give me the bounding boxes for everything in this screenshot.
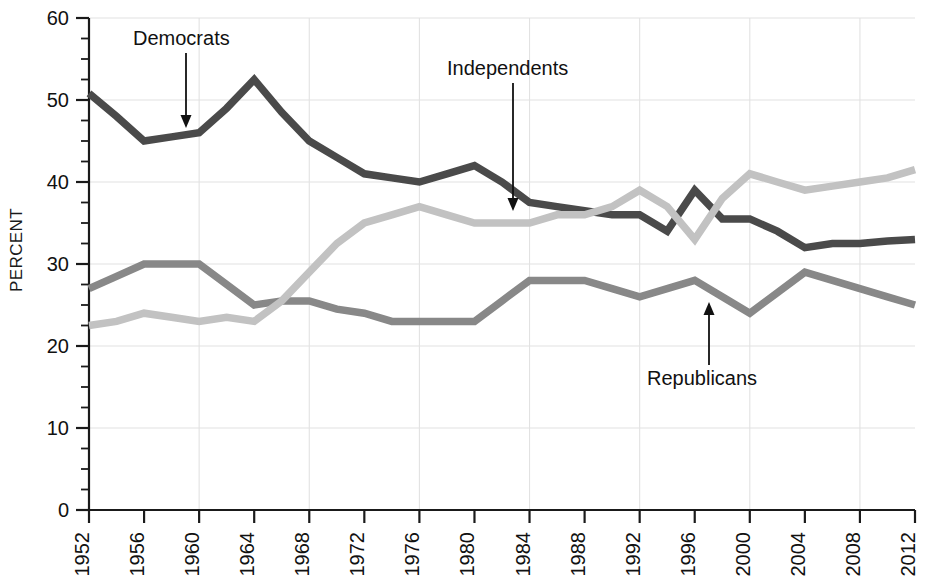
y-tick-labels: 0102030405060: [47, 7, 69, 521]
x-axis-ticks: [89, 510, 915, 523]
x-tick-label: 2000: [732, 532, 754, 577]
annotation-label-republicans: Republicans: [647, 367, 757, 389]
x-tick-label: 2008: [842, 532, 864, 577]
x-tick-label: 1964: [236, 532, 258, 577]
x-tick-label: 1980: [456, 532, 478, 577]
x-tick-labels: 1952195619601964196819721976198019841988…: [71, 532, 919, 577]
x-tick-label: 1996: [677, 532, 699, 577]
x-tick-label: 1988: [567, 532, 589, 577]
annotation-arrow-head: [181, 115, 192, 128]
y-tick-label: 50: [47, 89, 69, 111]
annotation-arrow-head: [704, 302, 715, 315]
y-tick-label: 20: [47, 335, 69, 357]
percent-party-identification-chart: 0102030405060 19521956196019641968197219…: [0, 0, 936, 580]
y-tick-label: 60: [47, 7, 69, 29]
x-tick-label: 2012: [897, 532, 919, 577]
x-tick-label: 1952: [71, 532, 93, 577]
y-tick-label: 0: [58, 499, 69, 521]
y-tick-label: 30: [47, 253, 69, 275]
x-tick-label: 1968: [291, 532, 313, 577]
x-tick-label: 1960: [181, 532, 203, 577]
y-axis-title-text: PERCENT: [7, 208, 26, 292]
gridlines: [89, 18, 915, 510]
annotation-arrow-head: [508, 198, 519, 211]
y-tick-label: 40: [47, 171, 69, 193]
chart-canvas: 0102030405060 19521956196019641968197219…: [0, 0, 936, 580]
y-axis-title: PERCENT: [7, 208, 26, 292]
x-tick-label: 1984: [512, 532, 534, 577]
x-tick-label: 2004: [787, 532, 809, 577]
x-tick-label: 1992: [622, 532, 644, 577]
data-series: [89, 80, 915, 326]
series-line-republicans: [89, 264, 915, 321]
annotation-label-democrats: Democrats: [133, 27, 230, 49]
x-tick-label: 1976: [401, 532, 423, 577]
y-tick-label: 10: [47, 417, 69, 439]
x-tick-label: 1972: [346, 532, 368, 577]
y-axis-ticks: [76, 18, 89, 510]
x-tick-label: 1956: [126, 532, 148, 577]
annotation-label-independents: Independents: [447, 57, 568, 79]
